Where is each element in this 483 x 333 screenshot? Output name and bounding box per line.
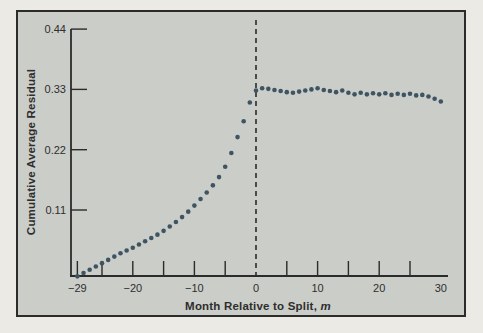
data-point bbox=[180, 215, 185, 220]
data-point bbox=[229, 151, 234, 156]
data-point bbox=[75, 274, 80, 279]
data-point bbox=[204, 190, 209, 195]
data-point bbox=[402, 93, 407, 98]
y-axis-title: Cumulative Average Residual bbox=[25, 69, 37, 235]
data-point bbox=[426, 94, 431, 99]
data-point bbox=[260, 86, 265, 91]
data-point bbox=[321, 88, 326, 93]
data-point bbox=[414, 93, 419, 98]
data-point bbox=[106, 258, 111, 263]
data-point bbox=[358, 90, 363, 95]
data-point bbox=[211, 183, 216, 188]
x-tick-label: 10 bbox=[311, 282, 323, 294]
data-point bbox=[383, 91, 388, 96]
x-tick-label: −10 bbox=[185, 282, 204, 294]
x-tick-label: −29 bbox=[68, 282, 87, 294]
data-point bbox=[100, 261, 105, 266]
y-tick-label: 0.44 bbox=[45, 23, 66, 35]
data-point bbox=[377, 92, 382, 97]
data-point bbox=[420, 93, 425, 98]
x-tick-label: −20 bbox=[123, 282, 142, 294]
y-tick-label: 0.22 bbox=[45, 144, 66, 156]
data-point bbox=[297, 89, 302, 94]
data-point bbox=[285, 90, 290, 95]
data-point bbox=[334, 90, 339, 95]
data-point bbox=[254, 88, 259, 93]
x-tick-label: 30 bbox=[435, 282, 447, 294]
data-point bbox=[112, 254, 117, 259]
data-point bbox=[174, 220, 179, 225]
scatter-chart: 0.440.330.220.11−29−20−100102030 bbox=[0, 0, 483, 333]
data-point bbox=[161, 229, 166, 234]
data-point bbox=[143, 239, 148, 244]
data-point bbox=[309, 87, 314, 92]
data-point bbox=[81, 271, 86, 276]
data-point bbox=[149, 236, 154, 241]
data-point bbox=[192, 203, 197, 208]
x-axis-title-variable: m bbox=[320, 300, 330, 312]
data-point bbox=[94, 264, 99, 269]
data-point bbox=[155, 232, 160, 237]
data-point bbox=[303, 88, 308, 93]
x-tick-label: 20 bbox=[373, 282, 385, 294]
y-axis-title-text: Cumulative Average Residual bbox=[25, 69, 37, 235]
x-tick-label: 0 bbox=[253, 282, 259, 294]
data-point bbox=[291, 90, 296, 95]
data-point bbox=[198, 197, 203, 202]
data-point bbox=[408, 91, 413, 96]
y-tick-label: 0.33 bbox=[45, 83, 66, 95]
y-tick-label: 0.11 bbox=[45, 204, 66, 216]
data-point bbox=[439, 99, 444, 104]
data-point bbox=[365, 92, 370, 97]
data-point bbox=[315, 86, 320, 91]
data-point bbox=[248, 100, 253, 105]
data-point bbox=[389, 93, 394, 98]
data-point bbox=[266, 87, 271, 92]
x-axis-title-text: Month Relative to Split, bbox=[185, 300, 320, 312]
data-point bbox=[328, 89, 333, 94]
data-point bbox=[137, 242, 142, 247]
data-point bbox=[87, 267, 92, 272]
data-point bbox=[346, 90, 351, 95]
data-point bbox=[340, 88, 345, 93]
x-axis-title: Month Relative to Split, m bbox=[185, 300, 331, 312]
data-point bbox=[272, 88, 277, 93]
data-point bbox=[131, 246, 136, 251]
data-point bbox=[432, 96, 437, 101]
data-point bbox=[395, 91, 400, 96]
data-point bbox=[223, 164, 228, 169]
data-point bbox=[278, 89, 283, 94]
data-point bbox=[124, 248, 129, 253]
data-point bbox=[186, 209, 191, 214]
data-point bbox=[167, 224, 172, 229]
data-point bbox=[217, 175, 222, 180]
data-point bbox=[235, 135, 240, 140]
data-point bbox=[241, 119, 246, 124]
data-point bbox=[352, 92, 357, 97]
page-background: 0.440.330.220.11−29−20−100102030 Cumulat… bbox=[0, 0, 483, 333]
data-point bbox=[118, 251, 123, 256]
data-point bbox=[371, 91, 376, 96]
